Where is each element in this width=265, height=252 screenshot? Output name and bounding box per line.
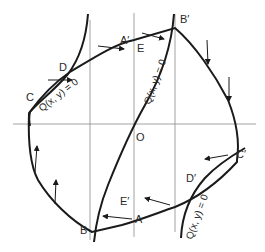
arrow-c-prime: [205, 155, 228, 159]
label-center-isocline: Q(x, y) = 0: [142, 57, 169, 105]
phase-portrait-diagram: A′ E B′ D C O C′ D′ E′ A B Q(x, y) = 0 Q…: [0, 0, 265, 252]
label-a: A: [135, 213, 143, 225]
arrow-e-prime: [103, 216, 132, 219]
label-b-prime: B′: [180, 13, 189, 25]
label-e: E: [137, 42, 144, 54]
label-o: O: [136, 131, 145, 143]
arrow-a: [145, 198, 170, 205]
arrow-left-lower: [55, 180, 56, 204]
label-right-isocline: Q(x, y) = 0: [184, 192, 211, 240]
label-a-prime: A′: [120, 34, 129, 46]
label-c: C: [26, 91, 34, 103]
label-d: D: [59, 61, 67, 73]
label-e-prime: E′: [120, 195, 129, 207]
label-b: B: [80, 224, 87, 236]
point-labels: A′ E B′ D C O C′ D′ E′ A B: [26, 13, 246, 236]
label-c-prime: C′: [236, 148, 246, 160]
label-d-prime: D′: [186, 172, 196, 184]
arrow-right-upper: [207, 40, 208, 64]
arrow-left-upper: [35, 146, 37, 172]
